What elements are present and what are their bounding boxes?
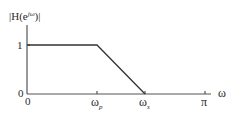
x-axis-label: ω xyxy=(218,86,226,100)
y-axis-title: |H(ejω)| xyxy=(9,10,40,23)
y-tick-label-one: 1 xyxy=(17,39,23,51)
x-tick-label-pi: π xyxy=(201,95,207,109)
x-tick-label-zero: 0 xyxy=(25,95,31,107)
magnitude-response-diagram: |H(ejω)| 1 0 0 ωp ωs π ω xyxy=(0,0,236,117)
x-tick-label-ws: ωs xyxy=(139,95,150,111)
x-tick-label-wp: ωp xyxy=(91,95,103,111)
response-curve xyxy=(27,45,145,94)
y-tick-label-zero: 0 xyxy=(18,87,24,99)
